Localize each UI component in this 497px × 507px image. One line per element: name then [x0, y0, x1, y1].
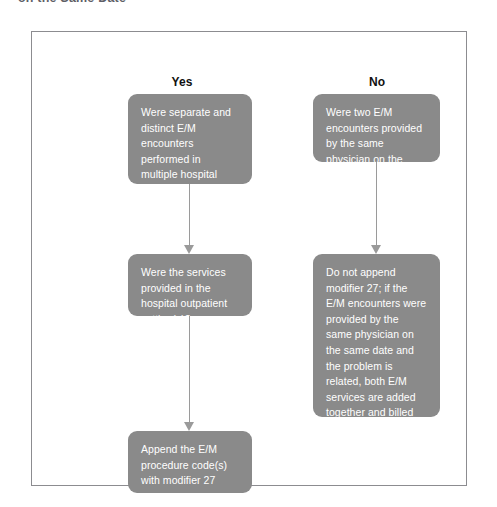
column-heading-no: No	[345, 75, 409, 89]
flow-box-yes-outcome-text: Append the E/M procedure code(s) with mo…	[141, 442, 239, 489]
arrow-head-icon	[184, 422, 194, 431]
arrow-no-1-to-2	[370, 162, 383, 254]
flowchart-figure-frame: Yes No Were separate and distinct E/M en…	[31, 31, 467, 486]
arrow-shaft	[189, 316, 190, 423]
arrow-yes-1-to-2	[183, 184, 196, 254]
flow-box-no-outcome: Do not append modifier 27; if the E/M en…	[313, 254, 440, 417]
flow-box-yes-outcome: Append the E/M procedure code(s) with mo…	[128, 431, 252, 493]
column-heading-yes: Yes	[150, 75, 214, 89]
arrow-head-icon	[184, 245, 194, 254]
arrow-shaft	[189, 184, 190, 246]
arrow-shaft	[376, 162, 377, 246]
flow-box-yes-question-2: Were the services provided in the hospit…	[128, 254, 252, 316]
page-caption: on the Same Date	[18, 0, 318, 5]
page-caption-text: on the Same Date	[18, 0, 318, 5]
flow-box-yes-question-1: Were separate and distinct E/M encounter…	[128, 94, 252, 184]
arrow-head-icon	[371, 245, 381, 254]
flow-box-no-outcome-text: Do not append modifier 27; if the E/M en…	[326, 265, 427, 452]
flow-box-no-question-1: Were two E/M encounters provided by the …	[313, 94, 440, 162]
arrow-yes-2-to-3	[183, 316, 196, 431]
